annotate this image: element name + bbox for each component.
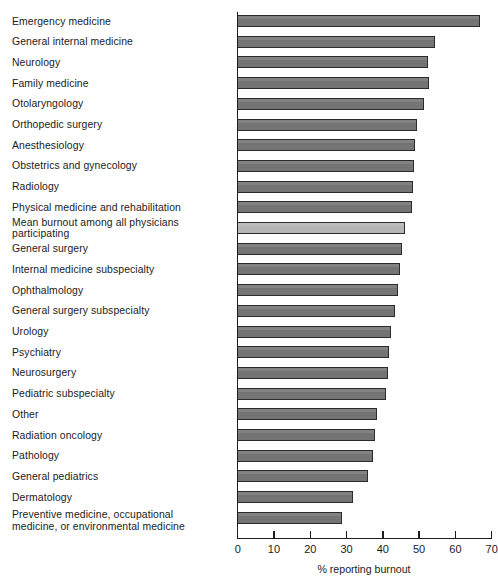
bar bbox=[237, 408, 377, 420]
chart-row: General pediatrics bbox=[0, 466, 496, 487]
chart-row: Radiology bbox=[0, 177, 496, 198]
bar bbox=[237, 284, 398, 296]
category-label: General surgery bbox=[12, 239, 232, 260]
chart-row: Neurology bbox=[0, 52, 496, 73]
chart-row: Family medicine bbox=[0, 73, 496, 94]
chart-row: Anesthesiology bbox=[0, 135, 496, 156]
x-tick-label: 0 bbox=[235, 543, 241, 555]
chart-row: General internal medicine bbox=[0, 32, 496, 53]
chart-row: Emergency medicine bbox=[0, 11, 496, 32]
bar bbox=[237, 56, 428, 68]
category-label: Psychiatry bbox=[12, 342, 232, 363]
chart-row: Obstetrics and gynecology bbox=[0, 156, 496, 177]
chart-row: Urology bbox=[0, 322, 496, 343]
category-label: Neurosurgery bbox=[12, 363, 232, 384]
chart-row: Ophthalmology bbox=[0, 280, 496, 301]
bar bbox=[237, 181, 413, 193]
chart-row: General surgery bbox=[0, 239, 496, 260]
bar bbox=[237, 77, 429, 89]
bar bbox=[237, 98, 424, 110]
bar bbox=[237, 367, 388, 379]
category-label: Ophthalmology bbox=[12, 280, 232, 301]
category-label: Pediatric subspecialty bbox=[12, 384, 232, 405]
bar bbox=[237, 512, 342, 524]
x-tick-label: 60 bbox=[449, 543, 461, 555]
chart-row: General surgery subspecialty bbox=[0, 301, 496, 322]
x-tick-label: 70 bbox=[486, 543, 498, 555]
chart-row: Physical medicine and rehabilitation bbox=[0, 197, 496, 218]
x-tick-label: 20 bbox=[304, 543, 316, 555]
bar bbox=[237, 36, 435, 48]
category-label: Other bbox=[12, 404, 232, 425]
bar bbox=[237, 139, 415, 151]
bar bbox=[237, 263, 400, 275]
bar bbox=[237, 491, 353, 503]
chart-row: Mean burnout among all physicians partic… bbox=[0, 218, 496, 239]
x-tick-label: 30 bbox=[340, 543, 352, 555]
category-label: Pathology bbox=[12, 446, 232, 467]
category-label: Urology bbox=[12, 322, 232, 343]
chart-row: Pediatric subspecialty bbox=[0, 384, 496, 405]
bar bbox=[237, 160, 414, 172]
chart-row: Dermatology bbox=[0, 487, 496, 508]
category-label: General pediatrics bbox=[12, 466, 232, 487]
category-label: Radiology bbox=[12, 177, 232, 198]
chart-row: Pathology bbox=[0, 446, 496, 467]
chart-row: Other bbox=[0, 404, 496, 425]
bar bbox=[237, 305, 395, 317]
category-label: Radiation oncology bbox=[12, 425, 232, 446]
chart-row: Radiation oncology bbox=[0, 425, 496, 446]
bar bbox=[237, 222, 405, 234]
chart-row: Orthopedic surgery bbox=[0, 115, 496, 136]
category-label: Otolaryngology bbox=[12, 94, 232, 115]
category-label: Orthopedic surgery bbox=[12, 115, 232, 136]
category-label: Anesthesiology bbox=[12, 135, 232, 156]
chart-plot-area: Emergency medicineGeneral internal medic… bbox=[0, 0, 496, 535]
category-label: Mean burnout among all physicians partic… bbox=[12, 218, 232, 239]
bar bbox=[237, 15, 480, 27]
category-label: Internal medicine subspecialty bbox=[12, 259, 232, 280]
category-label: Physical medicine and rehabilitation bbox=[12, 197, 232, 218]
bar bbox=[237, 388, 386, 400]
category-label: Family medicine bbox=[12, 73, 232, 94]
bar bbox=[237, 429, 375, 441]
category-label: Obstetrics and gynecology bbox=[12, 156, 232, 177]
x-axis-line bbox=[237, 538, 491, 539]
category-label: Neurology bbox=[12, 52, 232, 73]
category-label: General internal medicine bbox=[12, 32, 232, 53]
bar bbox=[237, 450, 373, 462]
bar bbox=[237, 119, 417, 131]
bar bbox=[237, 201, 412, 213]
category-label: General surgery subspecialty bbox=[12, 301, 232, 322]
category-label: Emergency medicine bbox=[12, 11, 232, 32]
chart-row: Internal medicine subspecialty bbox=[0, 259, 496, 280]
category-label: Preventive medicine, occupational medici… bbox=[12, 508, 232, 530]
x-tick-label: 10 bbox=[268, 543, 280, 555]
bar bbox=[237, 470, 368, 482]
x-tick-label: 50 bbox=[413, 543, 425, 555]
chart-row: Psychiatry bbox=[0, 342, 496, 363]
bar bbox=[237, 243, 402, 255]
chart-row: Otolaryngology bbox=[0, 94, 496, 115]
chart-row: Preventive medicine, occupational medici… bbox=[0, 508, 496, 529]
bar bbox=[237, 326, 391, 338]
chart-row: Neurosurgery bbox=[0, 363, 496, 384]
x-axis-title: % reporting burnout bbox=[237, 563, 491, 575]
bar bbox=[237, 346, 389, 358]
category-label: Dermatology bbox=[12, 487, 232, 508]
x-tick-label: 40 bbox=[377, 543, 389, 555]
